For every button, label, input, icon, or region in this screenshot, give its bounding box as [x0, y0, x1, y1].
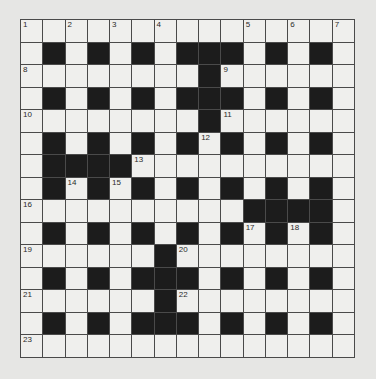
- answer-cell[interactable]: [110, 313, 131, 335]
- answer-cell[interactable]: [155, 200, 176, 222]
- answer-cell[interactable]: 12: [199, 133, 220, 155]
- answer-cell[interactable]: [288, 313, 309, 335]
- answer-cell[interactable]: [155, 155, 176, 177]
- answer-cell[interactable]: 17: [244, 223, 265, 245]
- answer-cell[interactable]: [66, 313, 87, 335]
- answer-cell[interactable]: [66, 223, 87, 245]
- answer-cell[interactable]: [199, 335, 220, 357]
- answer-cell[interactable]: [110, 245, 131, 267]
- answer-cell[interactable]: [66, 43, 87, 65]
- answer-cell[interactable]: [288, 65, 309, 87]
- answer-cell[interactable]: [88, 65, 109, 87]
- answer-cell[interactable]: [288, 290, 309, 312]
- answer-cell[interactable]: [21, 43, 42, 65]
- answer-cell[interactable]: [177, 155, 198, 177]
- answer-cell[interactable]: 2: [66, 20, 87, 42]
- answer-cell[interactable]: 18: [288, 223, 309, 245]
- answer-cell[interactable]: [199, 155, 220, 177]
- answer-cell[interactable]: [110, 268, 131, 290]
- answer-cell[interactable]: [333, 65, 354, 87]
- answer-cell[interactable]: [266, 20, 287, 42]
- answer-cell[interactable]: 9: [221, 65, 242, 87]
- answer-cell[interactable]: 15: [110, 178, 131, 200]
- answer-cell[interactable]: [288, 335, 309, 357]
- answer-cell[interactable]: [221, 335, 242, 357]
- answer-cell[interactable]: 1: [21, 20, 42, 42]
- answer-cell[interactable]: [110, 290, 131, 312]
- answer-cell[interactable]: [43, 20, 64, 42]
- answer-cell[interactable]: [43, 290, 64, 312]
- answer-cell[interactable]: [155, 43, 176, 65]
- answer-cell[interactable]: [132, 245, 153, 267]
- answer-cell[interactable]: 6: [288, 20, 309, 42]
- answer-cell[interactable]: [132, 20, 153, 42]
- answer-cell[interactable]: 11: [221, 110, 242, 132]
- answer-cell[interactable]: [132, 65, 153, 87]
- answer-cell[interactable]: 3: [110, 20, 131, 42]
- answer-cell[interactable]: [155, 133, 176, 155]
- answer-cell[interactable]: [88, 200, 109, 222]
- answer-cell[interactable]: [88, 245, 109, 267]
- answer-cell[interactable]: [155, 178, 176, 200]
- answer-cell[interactable]: [266, 245, 287, 267]
- answer-cell[interactable]: [310, 65, 331, 87]
- answer-cell[interactable]: [21, 133, 42, 155]
- answer-cell[interactable]: [21, 155, 42, 177]
- answer-cell[interactable]: [244, 43, 265, 65]
- answer-cell[interactable]: [21, 268, 42, 290]
- answer-cell[interactable]: [310, 20, 331, 42]
- answer-cell[interactable]: [333, 88, 354, 110]
- answer-cell[interactable]: [66, 268, 87, 290]
- answer-cell[interactable]: 8: [21, 65, 42, 87]
- answer-cell[interactable]: [288, 268, 309, 290]
- answer-cell[interactable]: [288, 155, 309, 177]
- answer-cell[interactable]: [310, 155, 331, 177]
- answer-cell[interactable]: [333, 290, 354, 312]
- answer-cell[interactable]: [43, 200, 64, 222]
- answer-cell[interactable]: [199, 20, 220, 42]
- answer-cell[interactable]: 19: [21, 245, 42, 267]
- answer-cell[interactable]: [333, 43, 354, 65]
- answer-cell[interactable]: [88, 335, 109, 357]
- answer-cell[interactable]: [266, 65, 287, 87]
- answer-cell[interactable]: [155, 110, 176, 132]
- answer-cell[interactable]: [288, 133, 309, 155]
- answer-cell[interactable]: [266, 110, 287, 132]
- answer-cell[interactable]: [43, 65, 64, 87]
- answer-cell[interactable]: [66, 200, 87, 222]
- answer-cell[interactable]: [155, 65, 176, 87]
- answer-cell[interactable]: [110, 200, 131, 222]
- answer-cell[interactable]: [66, 110, 87, 132]
- answer-cell[interactable]: [66, 290, 87, 312]
- answer-cell[interactable]: [288, 110, 309, 132]
- answer-cell[interactable]: [88, 110, 109, 132]
- answer-cell[interactable]: 21: [21, 290, 42, 312]
- answer-cell[interactable]: [221, 200, 242, 222]
- answer-cell[interactable]: [21, 88, 42, 110]
- answer-cell[interactable]: [66, 88, 87, 110]
- answer-cell[interactable]: [244, 110, 265, 132]
- answer-cell[interactable]: [244, 290, 265, 312]
- answer-cell[interactable]: [266, 290, 287, 312]
- answer-cell[interactable]: [199, 290, 220, 312]
- answer-cell[interactable]: [266, 155, 287, 177]
- answer-cell[interactable]: [333, 335, 354, 357]
- answer-cell[interactable]: [244, 313, 265, 335]
- answer-cell[interactable]: [199, 313, 220, 335]
- answer-cell[interactable]: [177, 335, 198, 357]
- answer-cell[interactable]: [310, 245, 331, 267]
- answer-cell[interactable]: [199, 268, 220, 290]
- answer-cell[interactable]: [244, 268, 265, 290]
- answer-cell[interactable]: [333, 110, 354, 132]
- answer-cell[interactable]: [288, 178, 309, 200]
- answer-cell[interactable]: [43, 110, 64, 132]
- answer-cell[interactable]: [333, 268, 354, 290]
- answer-cell[interactable]: [199, 223, 220, 245]
- answer-cell[interactable]: [333, 313, 354, 335]
- answer-cell[interactable]: [43, 335, 64, 357]
- answer-cell[interactable]: [221, 155, 242, 177]
- answer-cell[interactable]: [244, 335, 265, 357]
- answer-cell[interactable]: [244, 178, 265, 200]
- answer-cell[interactable]: [244, 88, 265, 110]
- answer-cell[interactable]: [266, 335, 287, 357]
